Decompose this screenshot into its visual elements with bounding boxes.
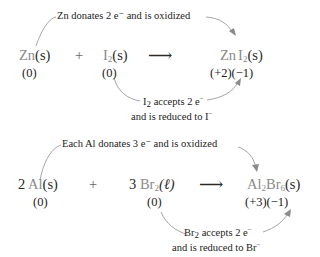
element-symbol: Br — [266, 176, 281, 192]
state: (s) — [285, 176, 300, 192]
oxidation-note-2: Each Al donates 3 e⁻ and is oxidized — [62, 137, 217, 149]
element-symbol: Al — [247, 176, 262, 192]
symbol: Br — [184, 227, 195, 238]
coefficient: 3 — [129, 176, 136, 192]
reaction-arrow: ⟶ — [199, 174, 223, 195]
oxidation-state-zni2: (+2)(−1) — [210, 66, 253, 81]
reduction-note-1-line1: I2 accepts 2 e− — [143, 96, 204, 107]
reduction-note-2-line1: Br2 accepts 2 e− — [184, 227, 252, 238]
element-symbol: Zn — [19, 47, 35, 63]
oxidation-state-zn: (0) — [22, 66, 37, 81]
product-zni2: ZnI2(s) — [220, 47, 263, 64]
reactant-al: 2 Al(s) — [18, 176, 58, 193]
reaction-arrow: ⟶ — [148, 45, 172, 66]
text: accepts 2 e — [151, 96, 200, 107]
oxidation-note-1: Zn donates 2 e⁻ and is oxidized — [57, 9, 190, 21]
state: (s) — [247, 47, 262, 63]
reactant-br2: 3 Br2(ℓ) — [129, 176, 175, 193]
oxidation-arc-2 — [40, 145, 61, 180]
reactant-zn: Zn(s) — [19, 47, 50, 64]
reduction-arc-1 — [114, 78, 140, 101]
text: and is reduced to Br — [172, 242, 257, 253]
text: accepts 2 e — [199, 227, 248, 238]
product-al2br6: Al2Br6(s) — [247, 176, 300, 193]
state: (s) — [112, 47, 127, 63]
oxidation-arc-1 — [36, 17, 56, 46]
superscript: − — [257, 241, 261, 249]
state: (s) — [35, 47, 50, 63]
superscript: − — [248, 226, 252, 234]
plus-sign: + — [75, 47, 83, 64]
state: (ℓ) — [159, 176, 175, 192]
coefficient: 2 — [18, 176, 25, 192]
oxidation-state-al: (0) — [33, 195, 48, 210]
superscript: − — [200, 95, 204, 103]
text: and is reduced to I — [131, 111, 209, 122]
reactant-i2: I2(s) — [103, 47, 128, 64]
plus-sign: + — [89, 176, 97, 193]
reduction-note-2-line2: and is reduced to Br− — [172, 242, 261, 253]
state: (s) — [43, 176, 58, 192]
reduction-arc-2 — [161, 212, 186, 234]
oxidation-state-br2: (0) — [147, 195, 162, 210]
superscript: − — [209, 110, 213, 118]
reduction-note-1-line2: and is reduced to I− — [131, 111, 213, 122]
element-symbol: Zn — [220, 47, 236, 63]
oxidation-state-al2br6: (+3)(−1) — [245, 195, 288, 210]
element-symbol: Al — [28, 176, 43, 192]
element-symbol: Br — [140, 176, 155, 192]
oxidation-state-i2: (0) — [102, 66, 117, 81]
electron-transfer-arrows — [0, 0, 320, 257]
